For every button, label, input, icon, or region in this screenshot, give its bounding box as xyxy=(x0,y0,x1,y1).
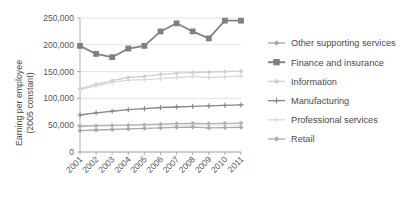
data-point-plus-marker xyxy=(206,103,211,108)
data-point-plus-marker xyxy=(190,74,195,79)
legend-label: Finance and insurance xyxy=(291,58,384,68)
data-point-plus-marker xyxy=(206,75,211,80)
y-tick-label: 250,000 xyxy=(43,13,74,23)
data-point-plus-marker xyxy=(190,104,195,109)
data-point-plus-marker xyxy=(126,107,131,112)
x-tick-label: 2008 xyxy=(177,154,198,175)
x-tick-label: 2001 xyxy=(64,154,85,175)
data-point-diamond-marker xyxy=(223,69,228,74)
x-axis xyxy=(80,152,241,155)
data-point-diamond-marker xyxy=(94,128,99,133)
legend-item-retail[interactable]: Retail xyxy=(268,134,315,144)
x-tick-label: 2010 xyxy=(209,154,230,175)
data-point-plus-marker xyxy=(274,117,280,123)
data-point-diamond-marker xyxy=(239,121,244,126)
y-tick-label: 150,000 xyxy=(43,67,74,77)
data-point-diamond-marker xyxy=(223,125,228,130)
series-line xyxy=(80,21,241,57)
data-point-plus-marker xyxy=(174,104,179,109)
data-point-square-marker xyxy=(109,54,115,60)
legend-label: Professional services xyxy=(291,115,378,125)
y-tick-label: 0 xyxy=(69,147,74,157)
legend-item-other-supporting-services[interactable]: Other supporting services xyxy=(268,38,396,48)
data-point-square-marker xyxy=(174,20,180,26)
data-point-diamond-marker xyxy=(239,69,244,74)
data-point-plus-marker xyxy=(222,103,227,108)
data-point-square-marker xyxy=(190,29,196,35)
data-point-diamond-marker xyxy=(158,122,163,127)
data-point-square-marker xyxy=(77,43,83,49)
data-point-diamond-marker xyxy=(126,123,131,128)
chart-container: 050,000100,000150,000200,000250,000 2001… xyxy=(0,0,406,197)
data-point-plus-marker xyxy=(174,75,179,80)
legend-label: Information xyxy=(291,77,337,87)
data-point-diamond-marker xyxy=(78,128,83,133)
y-axis-title-line2: (2005 constant) xyxy=(25,72,35,133)
data-point-plus-marker xyxy=(222,74,227,79)
legend-label: Other supporting services xyxy=(291,38,396,48)
x-tick-label: 2004 xyxy=(112,154,133,175)
data-point-square-marker xyxy=(273,59,279,65)
line-chart: 050,000100,000150,000200,000250,000 2001… xyxy=(0,0,406,197)
x-tick-label: 2007 xyxy=(161,154,182,175)
y-axis-tick-labels: 050,000100,000150,000200,000250,000 xyxy=(43,13,74,157)
x-tick-label: 2009 xyxy=(193,154,214,175)
x-tick-label: 2003 xyxy=(96,154,117,175)
data-point-plus-marker xyxy=(94,110,99,115)
data-point-diamond-marker xyxy=(142,122,147,127)
legend-label: Manufacturing xyxy=(291,96,349,106)
data-point-plus-marker xyxy=(274,98,280,104)
x-tick-label: 2006 xyxy=(144,154,165,175)
x-tick-label: 2011 xyxy=(225,154,245,174)
data-point-square-marker xyxy=(158,29,164,35)
series-finance-and-insurance xyxy=(77,18,244,60)
y-axis-title-line1: Earning per employee xyxy=(14,60,24,146)
data-point-diamond-marker xyxy=(239,125,244,130)
data-point-plus-marker xyxy=(238,102,243,107)
legend-label: Retail xyxy=(291,134,315,144)
data-point-square-marker xyxy=(125,46,131,52)
y-tick-label: 50,000 xyxy=(48,120,74,130)
y-tick-label: 100,000 xyxy=(43,93,74,103)
data-point-diamond-marker xyxy=(206,125,211,130)
x-axis-tick-labels: 2001200220032004200520062007200820092010… xyxy=(64,154,246,175)
data-point-plus-marker xyxy=(77,112,82,117)
data-point-diamond-marker xyxy=(94,123,99,128)
data-point-square-marker xyxy=(222,18,228,24)
y-axis-title: Earning per employee (2005 constant) xyxy=(14,60,35,146)
series-manufacturing xyxy=(77,102,243,117)
legend-item-finance-and-insurance[interactable]: Finance and insurance xyxy=(268,58,384,68)
legend: Other supporting servicesFinance and ins… xyxy=(268,38,396,144)
data-point-plus-marker xyxy=(142,77,147,82)
data-point-plus-marker xyxy=(158,105,163,110)
legend-item-information[interactable]: Information xyxy=(268,77,337,87)
plot-series xyxy=(77,18,244,133)
x-tick-label: 2005 xyxy=(128,154,149,175)
data-point-square-marker xyxy=(238,18,244,24)
gridlines xyxy=(80,18,241,152)
data-point-square-marker xyxy=(206,35,212,41)
data-point-diamond-marker xyxy=(274,136,280,142)
data-point-plus-marker xyxy=(158,76,163,81)
legend-item-manufacturing[interactable]: Manufacturing xyxy=(268,96,349,106)
data-point-diamond-marker xyxy=(274,40,280,46)
data-point-square-marker xyxy=(142,43,148,49)
data-point-diamond-marker xyxy=(78,124,83,129)
data-point-plus-marker xyxy=(238,73,243,78)
x-tick-label: 2002 xyxy=(80,154,101,175)
y-tick-label: 200,000 xyxy=(43,40,74,50)
data-point-diamond-marker xyxy=(274,79,280,85)
legend-item-professional-services[interactable]: Professional services xyxy=(268,115,378,125)
data-point-diamond-marker xyxy=(110,123,115,128)
data-point-plus-marker xyxy=(142,106,147,111)
data-point-diamond-marker xyxy=(158,72,163,77)
data-point-diamond-marker xyxy=(206,70,211,75)
data-point-plus-marker xyxy=(110,109,115,114)
data-point-square-marker xyxy=(93,51,99,57)
